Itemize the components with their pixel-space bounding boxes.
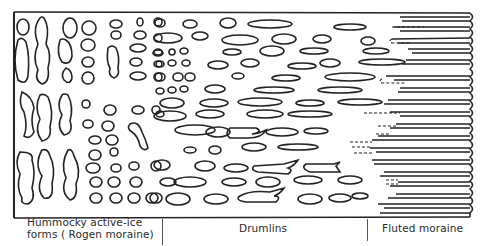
rogen-moraine-forms — [15, 17, 162, 204]
drumlin-forms — [150, 18, 405, 205]
zone-divider-1 — [162, 219, 163, 245]
label-hummocky-line1: Hummocky active-ice — [27, 216, 154, 228]
fluted-moraine-lines — [370, 17, 470, 213]
label-drumlins: Drumlins — [239, 222, 287, 234]
zone-divider-2 — [367, 219, 368, 241]
landform-diagram — [0, 0, 484, 246]
label-hummocky: Hummocky active-ice forms ( Rogen morain… — [27, 216, 154, 240]
label-hummocky-line2: forms ( Rogen moraine) — [27, 228, 154, 240]
label-fluted-moraine: Fluted moraine — [382, 222, 463, 234]
